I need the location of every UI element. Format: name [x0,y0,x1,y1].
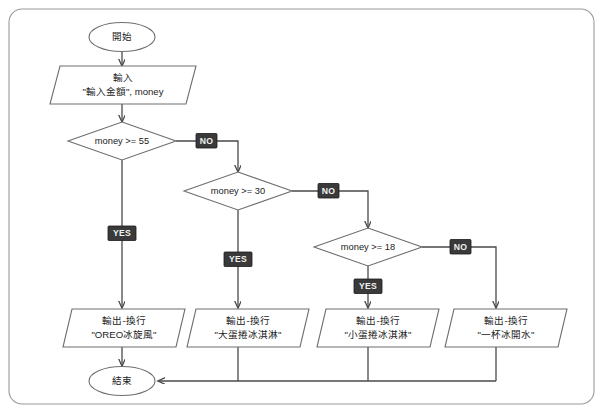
badge-decision2-no: NO [318,184,339,199]
badge-decision1-no: NO [196,134,217,149]
badge-decision2-yes: YES [224,252,252,267]
output-node-4: 輸出-換行 "一杯冰開水" [445,309,567,347]
no-badge-label-3: NO [454,242,467,252]
output-label-3-line1: 輸出-換行 [356,315,399,326]
start-label: 開始 [112,31,132,42]
flowchart-diagram: 開始 輸入 "輸入金額", money money >= 55 money >=… [0,0,603,413]
end-node: 結束 [89,367,155,396]
input-node: 輸入 "輸入金額", money [50,66,196,104]
yes-badge-label-1: YES [113,228,131,238]
badge-decision3-no: NO [450,240,471,255]
output-node-1: 輸出-換行 "OREO冰旋風" [63,309,185,347]
output-label-3-line2: "小蛋捲冰淇淋" [345,329,412,340]
input-label-line2: "輸入金額", money [83,86,164,97]
badge-decision3-yes: YES [354,279,382,294]
yes-badge-label-3: YES [359,281,377,291]
yes-badge-label-2: YES [229,254,247,264]
badge-decision1-yes: YES [108,226,136,241]
decision-label-1: money >= 55 [95,136,149,146]
no-badge-label-2: NO [322,186,335,196]
output-label-4-line2: "一杯冰開水" [478,329,535,340]
output-label-4-line1: 輸出-換行 [484,315,527,326]
decision-label-3: money >= 18 [341,242,395,252]
output-label-1-line1: 輸出-換行 [102,315,145,326]
no-badge-label-1: NO [200,136,213,146]
end-label: 結束 [112,375,132,386]
start-node: 開始 [89,23,155,52]
decision-label-2: money >= 30 [211,186,265,196]
output-label-2-line1: 輸出-換行 [226,315,269,326]
output-label-2-line2: "大蛋捲冰淇淋" [215,329,282,340]
flowchart-canvas: 開始 輸入 "輸入金額", money money >= 55 money >=… [0,0,603,413]
output-node-2: 輸出-換行 "大蛋捲冰淇淋" [187,309,309,347]
input-label-line1: 輸入 [113,72,133,83]
output-node-3: 輸出-換行 "小蛋捲冰淇淋" [317,309,439,347]
output-label-1-line2: "OREO冰旋風" [91,329,156,340]
